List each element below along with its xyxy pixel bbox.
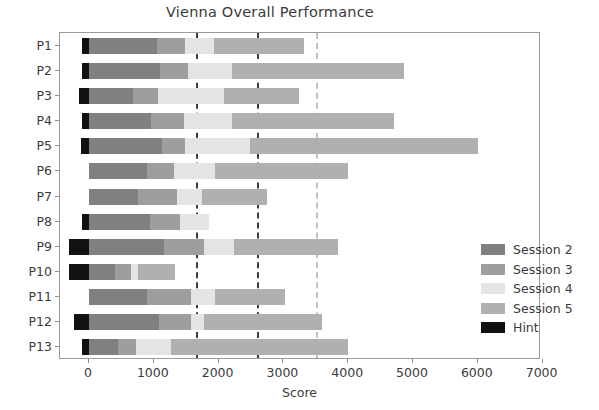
legend-label: Session 3 — [513, 262, 573, 277]
bar-segment-hint — [69, 264, 89, 280]
bar-group-p7 — [60, 189, 539, 205]
bar-segment-session-3 — [157, 38, 185, 54]
legend-item-session-4[interactable]: Session 4 — [481, 279, 597, 299]
bar-group-p13 — [60, 339, 539, 355]
bar-segment-hint — [82, 38, 89, 54]
bar-segment-session-5 — [138, 264, 176, 280]
bar-segment-session-5 — [215, 289, 285, 305]
legend-item-session-5[interactable]: Session 5 — [481, 299, 597, 319]
bar-segment-session-3 — [151, 113, 183, 129]
legend-item-session-2[interactable]: Session 2 — [481, 240, 597, 260]
bar-segment-session-5 — [232, 113, 393, 129]
bar-segment-hint — [74, 314, 89, 330]
bar-segment-session-2 — [89, 264, 115, 280]
bar-segment-hint — [81, 138, 89, 154]
bar-segment-session-3 — [160, 63, 188, 79]
y-tick-label-p12: P12 — [0, 315, 52, 328]
chart-title: Vienna Overall Performance — [0, 4, 540, 20]
bar-group-p4 — [60, 113, 539, 129]
x-axis-label: Score — [59, 385, 540, 400]
y-tick-label-p2: P2 — [0, 63, 52, 76]
bar-segment-session-5 — [224, 88, 299, 104]
legend-label: Session 4 — [513, 281, 573, 296]
x-tick-label-7000: 7000 — [526, 365, 558, 380]
y-axis: P1P2P3P4P5P6P7P8P9P10P11P12P13 — [0, 32, 59, 359]
bar-segment-session-3 — [164, 239, 204, 255]
bar-segment-session-3 — [147, 163, 174, 179]
bar-segment-session-4 — [180, 214, 209, 230]
x-tick-mark — [282, 359, 283, 363]
bar-segment-hint — [82, 113, 89, 129]
x-tick-label-5000: 5000 — [396, 365, 428, 380]
bar-segment-session-3 — [150, 214, 180, 230]
x-tick-mark — [218, 359, 219, 363]
legend-item-hint[interactable]: Hint — [481, 318, 597, 338]
bar-segment-session-4 — [191, 314, 204, 330]
legend-swatch-icon — [481, 244, 505, 255]
y-tick-label-p9: P9 — [0, 239, 52, 252]
legend-swatch-icon — [481, 303, 505, 314]
bar-segment-session-5 — [232, 63, 404, 79]
y-tick-label-p6: P6 — [0, 164, 52, 177]
y-tick-label-p8: P8 — [0, 214, 52, 227]
bar-segment-session-4 — [204, 239, 234, 255]
bar-segment-session-2 — [89, 314, 159, 330]
bar-segment-session-2 — [89, 239, 164, 255]
y-tick-label-p11: P11 — [0, 290, 52, 303]
bar-segment-session-5 — [202, 189, 267, 205]
y-tick-label-p4: P4 — [0, 114, 52, 127]
bar-segment-session-4 — [158, 88, 225, 104]
bar-segment-session-5 — [204, 314, 322, 330]
bar-segment-session-5 — [171, 339, 349, 355]
x-tick-label-6000: 6000 — [461, 365, 493, 380]
bar-segment-session-4 — [136, 339, 171, 355]
x-tick-mark — [412, 359, 413, 363]
bar-segment-session-2 — [89, 289, 147, 305]
bar-segment-hint — [79, 88, 89, 104]
bar-segment-session-3 — [162, 138, 185, 154]
x-tick-label-4000: 4000 — [331, 365, 363, 380]
bar-segment-session-3 — [138, 189, 177, 205]
bar-group-p5 — [60, 138, 539, 154]
bar-segment-session-5 — [215, 163, 348, 179]
y-tick-label-p7: P7 — [0, 189, 52, 202]
bar-group-p10 — [60, 264, 539, 280]
bar-group-p6 — [60, 163, 539, 179]
legend-swatch-icon — [481, 264, 505, 275]
chart-figure: Vienna Overall Performance P1P2P3P4P5P6P… — [0, 0, 599, 410]
bar-segment-session-4 — [188, 63, 232, 79]
y-tick-label-p3: P3 — [0, 88, 52, 101]
bar-segment-session-2 — [89, 113, 151, 129]
y-tick-label-p1: P1 — [0, 38, 52, 51]
legend-label: Session 5 — [513, 301, 573, 316]
bar-group-p3 — [60, 88, 539, 104]
bar-segment-session-5 — [250, 138, 478, 154]
x-tick-label-2000: 2000 — [202, 365, 234, 380]
bar-segment-hint — [82, 339, 89, 355]
plot-area — [59, 32, 540, 359]
bar-segment-session-3 — [115, 264, 131, 280]
legend-label: Hint — [513, 320, 539, 335]
bar-segment-session-2 — [89, 63, 160, 79]
x-tick-mark — [347, 359, 348, 363]
x-tick-mark — [542, 359, 543, 363]
bar-segment-session-2 — [89, 339, 118, 355]
y-tick-label-p10: P10 — [0, 264, 52, 277]
bar-segment-session-4 — [185, 138, 250, 154]
legend-swatch-icon — [481, 322, 505, 333]
x-tick-label-0: 0 — [84, 365, 92, 380]
legend-item-session-3[interactable]: Session 3 — [481, 260, 597, 280]
chart-legend: Session 2Session 3Session 4Session 5Hint — [481, 240, 597, 338]
bar-segment-session-2 — [89, 189, 138, 205]
bar-segment-session-2 — [89, 138, 162, 154]
bar-segment-session-5 — [214, 38, 304, 54]
bar-segment-session-5 — [234, 239, 338, 255]
x-tick-mark — [88, 359, 89, 363]
legend-label: Session 2 — [513, 242, 573, 257]
bar-segment-session-4 — [191, 289, 214, 305]
bar-segment-hint — [69, 239, 89, 255]
bar-segment-session-2 — [89, 214, 150, 230]
legend-swatch-icon — [481, 283, 505, 294]
bar-segment-hint — [82, 214, 89, 230]
x-tick-label-1000: 1000 — [137, 365, 169, 380]
